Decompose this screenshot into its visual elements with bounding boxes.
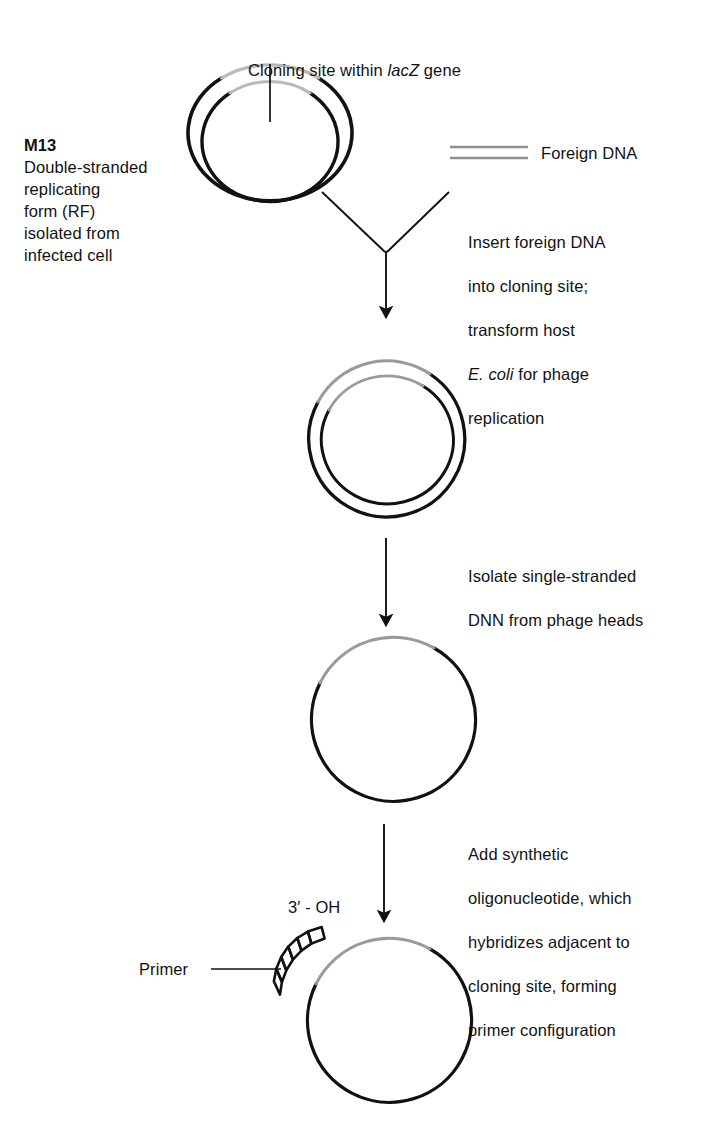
stage-3-strand [312, 648, 476, 801]
stage-2-recombinant-rf [309, 361, 465, 517]
step-primer-caption: Add synthetic oligonucleotide, which hyb… [468, 821, 696, 1041]
ecoli-species-name: E. coli [468, 365, 514, 383]
m13-caption: M13Double-stranded replicating form (RF)… [24, 112, 204, 266]
step-insert-line4-rest: for phage [514, 365, 589, 383]
lacz-gene-name: lacZ [388, 61, 420, 79]
legend-foreign-dna-label: Foreign DNA [541, 142, 637, 164]
step-insert-caption: Insert foreign DNA into cloning site; tr… [468, 209, 683, 429]
cloning-site-label: Cloning site within lacZ gene [248, 37, 461, 81]
step-primer-line1: Add synthetic [468, 845, 568, 863]
arrow-y-converging [322, 192, 449, 312]
stage-2-outer-strand [309, 374, 465, 517]
stage-3-single-stranded-dna [312, 637, 476, 801]
stage-3-foreign-dna [320, 637, 434, 683]
cloning-site-label-post: gene [419, 61, 461, 79]
step-primer-line4: cloning site, forming [468, 977, 617, 995]
step-primer-line5: primer configuration [468, 1021, 616, 1039]
step-isolate-line2: DNN from phage heads [468, 611, 643, 629]
legend-foreign-dna-symbol [450, 147, 528, 158]
diagram-figure: Cloning site within lacZ gene M13Double-… [0, 0, 722, 1147]
step-isolate-caption: Isolate single-stranded DNN from phage h… [468, 543, 693, 631]
primer-label: Primer [139, 958, 188, 980]
primer-box [274, 969, 282, 995]
step-insert-line3: transform host [468, 321, 575, 339]
step-isolate-line1: Isolate single-stranded [468, 567, 636, 585]
three-prime-oh-label: 3′ - OH [288, 896, 340, 918]
stage-4-primed-template [211, 927, 472, 1102]
stage-4-strand [308, 949, 472, 1102]
step-primer-line2: oligonucleotide, which [468, 889, 632, 907]
stage-2-inner-foreign-dna [329, 376, 423, 410]
m13-body: Double-stranded replicating form (RF) is… [24, 158, 148, 264]
stage-2-inner-strand [321, 386, 453, 504]
cloning-site-label-pre: Cloning site within [248, 61, 388, 79]
m13-title: M13 [24, 134, 204, 156]
stage-4-foreign-dna [316, 938, 430, 984]
step-insert-line1: Insert foreign DNA [468, 233, 606, 251]
step-primer-line3: hybridizes adjacent to [468, 933, 630, 951]
stage-1-double-stranded-rf [188, 64, 352, 202]
step-insert-line5: replication [468, 409, 544, 427]
step-insert-line2: into cloning site; [468, 277, 588, 295]
